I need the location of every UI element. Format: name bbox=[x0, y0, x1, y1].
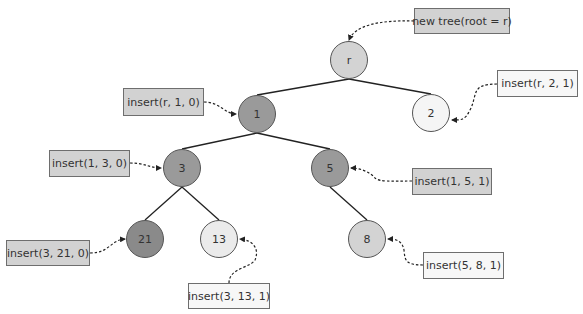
operation-label-box: new tree(root = r) bbox=[414, 8, 510, 34]
operation-label-box: insert(1, 3, 0) bbox=[49, 150, 130, 177]
tree-edge-1-5 bbox=[257, 133, 330, 149]
dashed-arrow-icon bbox=[90, 239, 125, 253]
tree-node-2: 2 bbox=[412, 94, 450, 132]
dashed-arrow-icon bbox=[130, 163, 161, 168]
node-label: 3 bbox=[179, 162, 186, 175]
node-label: 5 bbox=[327, 162, 334, 175]
tree-edge-1-3 bbox=[182, 133, 257, 149]
tree-edge-r-1 bbox=[257, 79, 349, 95]
operation-label-text: insert(1, 3, 0) bbox=[52, 157, 127, 170]
tree-edge-3-21 bbox=[145, 187, 182, 220]
operation-label-box: insert(3, 21, 0) bbox=[6, 240, 90, 266]
dashed-arrow-icon bbox=[388, 239, 423, 265]
tree-node-21: 21 bbox=[126, 220, 164, 258]
operation-label-text: insert(r, 2, 1) bbox=[501, 77, 573, 90]
operation-label-box: insert(5, 8, 1) bbox=[423, 252, 504, 279]
operation-label-text: insert(1, 5, 1) bbox=[415, 175, 490, 188]
node-label: 2 bbox=[428, 107, 435, 120]
tree-node-r: r bbox=[330, 41, 368, 79]
operation-label-box: insert(r, 2, 1) bbox=[497, 70, 578, 97]
node-label: r bbox=[347, 54, 352, 67]
dashed-arrow-icon bbox=[349, 21, 414, 40]
operation-label-box: insert(1, 5, 1) bbox=[412, 168, 492, 195]
node-label: 13 bbox=[212, 233, 226, 246]
operation-label-text: insert(5, 8, 1) bbox=[426, 259, 501, 272]
operation-label-text: insert(3, 13, 1) bbox=[188, 290, 270, 303]
tree-node-13: 13 bbox=[200, 220, 238, 258]
node-label: 21 bbox=[138, 233, 152, 246]
node-label: 8 bbox=[364, 233, 371, 246]
tree-node-3: 3 bbox=[163, 149, 201, 187]
tree-edge-5-8 bbox=[330, 187, 367, 220]
operation-label-text: insert(r, 1, 0) bbox=[127, 96, 199, 109]
operation-label-box: insert(r, 1, 0) bbox=[123, 88, 204, 116]
node-label: 1 bbox=[254, 108, 261, 121]
tree-edge-3-13 bbox=[182, 187, 219, 220]
dashed-arrow-icon bbox=[204, 102, 236, 114]
tree-node-5: 5 bbox=[311, 149, 349, 187]
operation-label-text: insert(3, 21, 0) bbox=[7, 247, 89, 260]
tree-node-8: 8 bbox=[348, 220, 386, 258]
operation-label-box: insert(3, 13, 1) bbox=[188, 283, 270, 309]
dashed-arrow-icon bbox=[452, 84, 497, 120]
operation-label-text: new tree(root = r) bbox=[412, 15, 512, 28]
tree-node-1: 1 bbox=[238, 95, 276, 133]
dashed-arrow-icon bbox=[351, 168, 412, 181]
tree-edge-r-2 bbox=[349, 79, 431, 94]
